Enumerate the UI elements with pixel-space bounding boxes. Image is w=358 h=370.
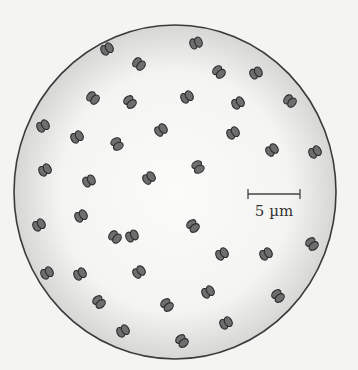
microscope-field-svg	[0, 0, 358, 370]
field-of-view-circle	[14, 25, 336, 359]
scale-bar-label: 5 µm	[246, 202, 302, 220]
microscope-diagram: 5 µm	[0, 0, 358, 370]
